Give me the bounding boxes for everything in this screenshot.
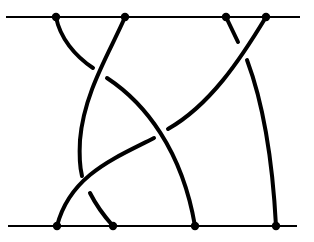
strand-a-top-segment xyxy=(56,17,93,68)
braid-strands xyxy=(56,17,276,226)
top-endpoint-node xyxy=(121,13,129,21)
bottom-endpoint-node xyxy=(109,222,117,230)
strand-b-top-segment xyxy=(80,17,125,176)
top-endpoint-node xyxy=(222,13,230,21)
bottom-endpoint-node xyxy=(272,222,280,230)
braid-diagram xyxy=(0,0,314,242)
strand-a-bottom-segment xyxy=(107,78,195,226)
bottom-endpoint-node xyxy=(191,222,199,230)
top-endpoint-node xyxy=(52,13,60,21)
top-endpoint-node xyxy=(262,13,270,21)
strand-c-bottom-segment xyxy=(247,60,276,226)
strand-d-bottom-segment xyxy=(57,138,154,226)
strand-b-bottom-segment xyxy=(90,193,113,226)
bottom-endpoint-node xyxy=(53,222,61,230)
